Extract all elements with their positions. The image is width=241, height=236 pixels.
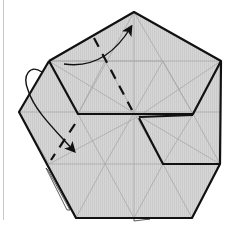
origami-diagram bbox=[0, 0, 241, 236]
